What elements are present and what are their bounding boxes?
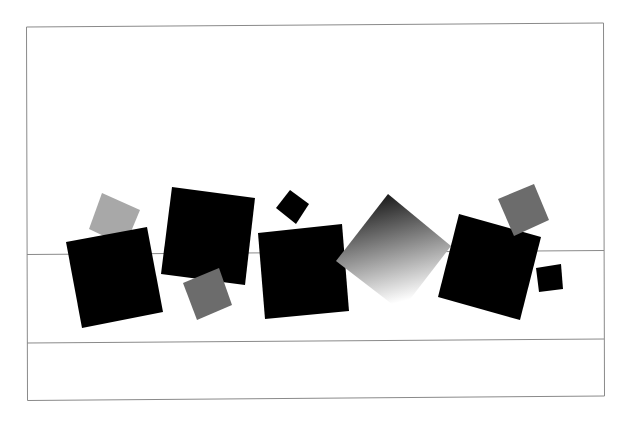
composition-canvas: [0, 0, 631, 424]
small-black-square-2: [536, 264, 563, 292]
lower-horizontal-line: [27, 339, 604, 343]
gradient-square: [336, 194, 451, 311]
black-square-2: [161, 187, 255, 285]
black-square-3: [258, 224, 349, 319]
black-square-1: [66, 227, 163, 328]
small-black-square-1: [276, 190, 309, 224]
